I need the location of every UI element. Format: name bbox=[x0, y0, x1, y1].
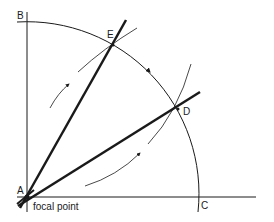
label-d: D bbox=[183, 107, 190, 117]
geometry-diagram bbox=[0, 0, 274, 222]
label-b: B bbox=[17, 11, 24, 21]
rotation-arrow-upper bbox=[50, 84, 69, 108]
arc-through-d bbox=[148, 64, 191, 144]
point-e bbox=[112, 44, 115, 47]
line-ae bbox=[20, 20, 126, 208]
label-a: A bbox=[17, 186, 24, 196]
point-d bbox=[177, 108, 180, 111]
label-c: C bbox=[201, 201, 208, 211]
label-e: E bbox=[107, 30, 114, 40]
point-a bbox=[25, 195, 30, 200]
arc-arrow-e-to-d bbox=[140, 62, 150, 72]
label-focal-point: focal point bbox=[33, 202, 79, 212]
